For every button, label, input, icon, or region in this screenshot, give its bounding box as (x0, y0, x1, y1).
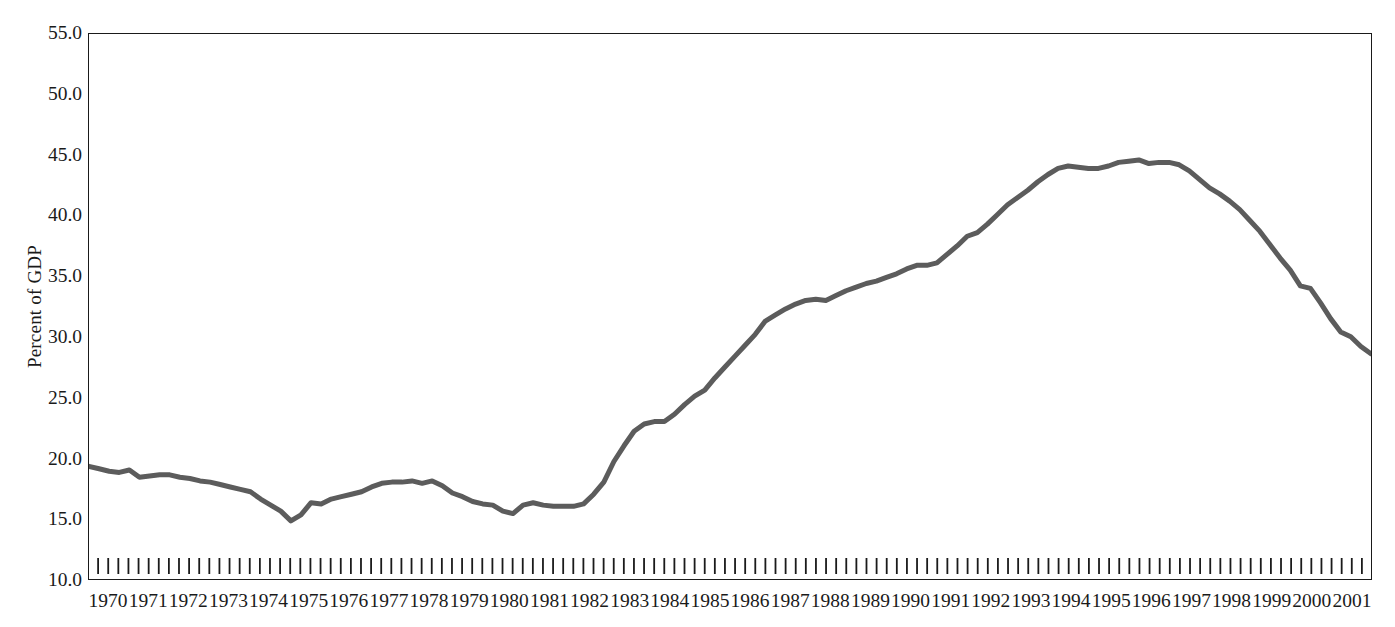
x-tick-label: 1984 (650, 586, 690, 616)
x-tick-label: 2000 (1292, 586, 1332, 616)
x-tick-label: 1970 (88, 586, 128, 616)
x-tick-label: 1973 (208, 586, 248, 616)
data-line-canvas (89, 34, 1371, 579)
x-axis-tick-canvas (88, 558, 1372, 580)
x-tick-label: 1992 (971, 586, 1011, 616)
x-tick-label: 1985 (690, 586, 730, 616)
series-line-percent-of-gdp (89, 160, 1371, 521)
x-tick-label: 1975 (289, 586, 329, 616)
x-axis-ticks (88, 558, 1372, 580)
x-tick-label: 1994 (1051, 586, 1091, 616)
x-tick-label: 1974 (249, 586, 289, 616)
plot-area (88, 33, 1372, 580)
x-tick-label: 1980 (489, 586, 529, 616)
y-tick-label: 25.0 (4, 388, 82, 408)
x-tick-label: 1989 (850, 586, 890, 616)
y-tick-label: 30.0 (4, 327, 82, 347)
y-axis-tick-labels: 55.0 50.0 45.0 40.0 35.0 30.0 25.0 20.0 … (0, 0, 82, 627)
x-tick-label: 1986 (730, 586, 770, 616)
x-tick-label: 1971 (128, 586, 168, 616)
x-tick-label: 1991 (931, 586, 971, 616)
x-tick-label: 2001 (1332, 586, 1372, 616)
y-tick-label: 35.0 (4, 266, 82, 286)
x-tick-label: 1999 (1252, 586, 1292, 616)
x-tick-label: 1997 (1171, 586, 1211, 616)
y-tick-label: 15.0 (4, 509, 82, 529)
y-tick-label: 45.0 (4, 145, 82, 165)
x-tick-label: 1982 (570, 586, 610, 616)
x-tick-label: 1993 (1011, 586, 1051, 616)
chart-figure: Percent of GDP 55.0 50.0 45.0 40.0 35.0 … (0, 0, 1395, 627)
y-tick-label: 55.0 (4, 23, 82, 43)
x-axis-tick-labels: 1970197119721973197419751976197719781979… (88, 586, 1372, 620)
x-tick-label: 1978 (409, 586, 449, 616)
x-tick-label: 1996 (1131, 586, 1171, 616)
x-tick-label: 1979 (449, 586, 489, 616)
y-tick-label: 40.0 (4, 205, 82, 225)
x-tick-label: 1976 (329, 586, 369, 616)
y-tick-label: 50.0 (4, 84, 82, 104)
x-tick-label: 1983 (610, 586, 650, 616)
x-tick-label: 1988 (810, 586, 850, 616)
x-tick-label: 1987 (770, 586, 810, 616)
x-tick-label: 1990 (891, 586, 931, 616)
x-tick-label: 1998 (1212, 586, 1252, 616)
x-tick-label: 1981 (529, 586, 569, 616)
x-tick-label: 1995 (1091, 586, 1131, 616)
x-tick-label: 1972 (168, 586, 208, 616)
y-tick-label: 20.0 (4, 449, 82, 469)
x-tick-label: 1977 (369, 586, 409, 616)
y-tick-label: 10.0 (4, 570, 82, 590)
